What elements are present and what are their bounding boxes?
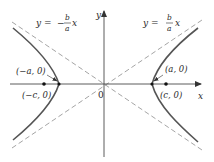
- pos-focus-point: [164, 82, 168, 86]
- neg-focus-label: (−c, 0): [22, 90, 51, 100]
- pos-vertex-point: [150, 82, 153, 85]
- neg-vertex-point: [57, 82, 60, 85]
- asymptote-negative-label: y = − b a x: [35, 13, 77, 33]
- pos-vertex-label: (a, 0): [165, 64, 188, 74]
- asymptote-positive-label: y = b a x: [142, 13, 180, 33]
- asymptote-negative-slope: [12, 22, 202, 150]
- hyperbola-right-branch: [152, 28, 198, 142]
- svg-text:b: b: [167, 13, 172, 22]
- svg-text:x: x: [72, 18, 77, 28]
- neg-focus-point: [42, 82, 46, 86]
- origin-label: 0: [98, 90, 104, 100]
- pos-focus-label: (c, 0): [160, 90, 182, 100]
- svg-text:x: x: [175, 18, 180, 28]
- svg-text:y =: y =: [142, 18, 159, 28]
- x-axis-label: x: [198, 91, 203, 101]
- neg-vertex-label: (−a, 0): [16, 66, 46, 76]
- y-axis-label: y: [95, 10, 102, 20]
- svg-text:a: a: [65, 24, 69, 33]
- svg-text:y =: y =: [35, 18, 52, 28]
- hyperbola-diagram: y x 0 (−a, 0) (−c, 0) (a, 0) (c, 0) y = …: [0, 0, 214, 162]
- svg-text:b: b: [65, 13, 70, 22]
- svg-text:−: −: [57, 18, 65, 28]
- svg-text:a: a: [167, 24, 171, 33]
